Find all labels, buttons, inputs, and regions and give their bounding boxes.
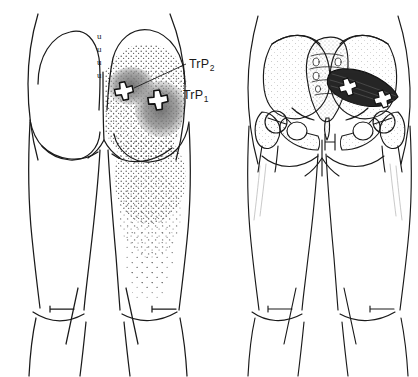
- svg-text:u: u: [97, 70, 102, 80]
- svg-text:u: u: [97, 57, 102, 67]
- trp1-label: TrP1: [183, 88, 208, 102]
- right-obturator-foramen: [353, 122, 373, 140]
- svg-text:u: u: [97, 44, 102, 54]
- trp2-label: TrP2: [189, 57, 214, 71]
- svg-text:u: u: [97, 31, 102, 41]
- figure-canvas: u u u u: [0, 0, 418, 377]
- left-obturator-foramen: [287, 122, 307, 140]
